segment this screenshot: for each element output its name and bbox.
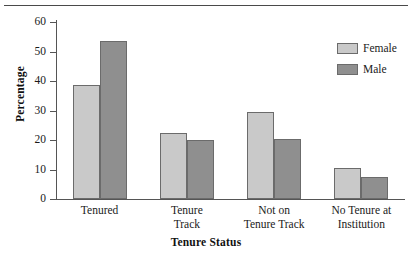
y-tick-label: 60 xyxy=(0,16,46,28)
x-category-label-line: Tenured xyxy=(52,204,148,218)
plot-area: 0102030405060 TenuredTenureTrackNot onTe… xyxy=(0,0,412,255)
chart-legend: FemaleMale xyxy=(337,41,409,83)
y-axis-title: Percentage xyxy=(14,46,26,142)
x-axis-line xyxy=(56,199,405,200)
legend-swatch-female xyxy=(337,43,358,54)
x-category-label-3: No Tenure atInstitution xyxy=(313,204,409,231)
bar-male-0 xyxy=(100,41,127,199)
legend-swatch-male xyxy=(337,64,358,75)
bar-female-3 xyxy=(334,168,361,199)
bar-male-1 xyxy=(187,140,214,199)
x-category-label-line: Tenure xyxy=(139,204,235,218)
y-tick-label: 0 xyxy=(0,193,46,205)
bar-chart-figure: 0102030405060 TenuredTenureTrackNot onTe… xyxy=(0,0,412,255)
x-category-label-line: Tenure Track xyxy=(226,218,322,232)
bar-male-3 xyxy=(361,177,388,199)
legend-label: Male xyxy=(363,62,387,77)
x-category-label-0: Tenured xyxy=(52,204,148,218)
bar-female-0 xyxy=(73,85,100,199)
x-axis-title: Tenure Status xyxy=(0,236,412,248)
x-category-label-line: Track xyxy=(139,218,235,232)
x-category-label-line: Not on xyxy=(226,204,322,218)
legend-item-female[interactable]: Female xyxy=(337,41,409,58)
x-category-label-1: TenureTrack xyxy=(139,204,235,231)
bar-male-2 xyxy=(274,139,301,199)
y-tick-label: 10 xyxy=(0,164,46,176)
x-category-label-2: Not onTenure Track xyxy=(226,204,322,231)
x-category-label-line: No Tenure at xyxy=(313,204,409,218)
y-tick-mark xyxy=(50,199,56,200)
x-category-label-line: Institution xyxy=(313,218,409,232)
legend-item-male[interactable]: Male xyxy=(337,62,409,79)
legend-label: Female xyxy=(363,41,397,56)
bar-female-1 xyxy=(160,133,187,199)
bar-female-2 xyxy=(247,112,274,199)
